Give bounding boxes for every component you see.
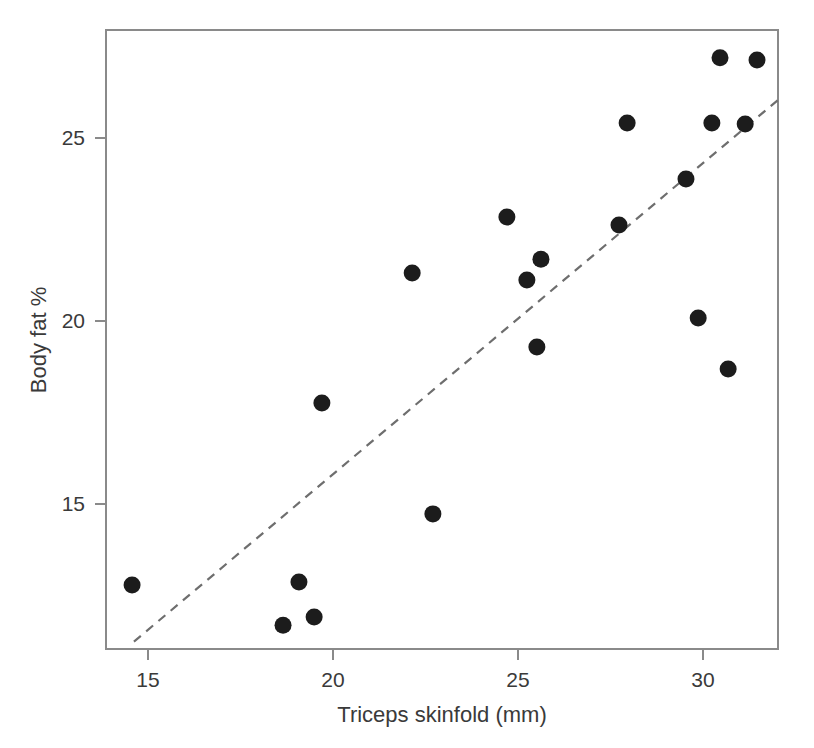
x-tick-label: 25 xyxy=(506,668,529,691)
plot-frame xyxy=(106,30,778,649)
x-tick-label: 30 xyxy=(691,668,714,691)
data-point xyxy=(532,251,549,268)
data-point xyxy=(712,49,729,66)
data-point xyxy=(528,338,545,355)
y-tick-label: 15 xyxy=(62,492,85,515)
scatter-plot: 15202530 152025 Triceps skinfold (mm) Bo… xyxy=(0,0,814,748)
data-point xyxy=(749,52,766,69)
data-point xyxy=(690,310,707,327)
data-point xyxy=(737,116,754,133)
data-point xyxy=(290,573,307,590)
data-point xyxy=(619,114,636,131)
data-point xyxy=(306,609,323,626)
chart-figure: 15202530 152025 Triceps skinfold (mm) Bo… xyxy=(0,0,814,748)
y-tick-label: 25 xyxy=(62,126,85,149)
x-axis-ticks: 15202530 xyxy=(136,649,714,691)
data-point xyxy=(124,576,141,593)
data-point xyxy=(275,617,292,634)
x-tick-label: 20 xyxy=(321,668,344,691)
x-axis-title: Triceps skinfold (mm) xyxy=(337,702,546,727)
data-points-group xyxy=(124,49,766,633)
y-axis-title: Body fat % xyxy=(26,287,51,393)
data-point xyxy=(518,272,535,289)
x-tick-label: 15 xyxy=(136,668,159,691)
data-point xyxy=(313,394,330,411)
data-point xyxy=(720,360,737,377)
data-point xyxy=(404,265,421,282)
data-point xyxy=(703,114,720,131)
data-point xyxy=(424,505,441,522)
y-axis-ticks: 152025 xyxy=(62,126,106,515)
data-point xyxy=(677,170,694,187)
data-point xyxy=(611,217,628,234)
data-point xyxy=(498,209,515,226)
y-tick-label: 20 xyxy=(62,309,85,332)
